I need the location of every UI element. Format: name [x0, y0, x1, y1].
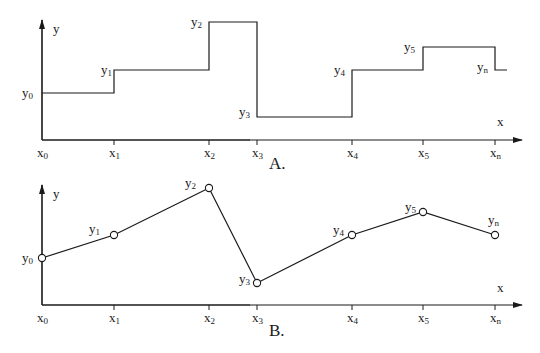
- panel-b-x3-label: x3: [252, 311, 263, 328]
- panel-a-y2-label: y2: [191, 15, 202, 32]
- panel-a-x5-label: x5: [418, 146, 429, 163]
- panel-b-x2-label: x2: [204, 311, 215, 328]
- panel-b-caption: B.: [269, 322, 285, 339]
- panel-b-x5-label: x5: [418, 311, 429, 328]
- panel-b-x0-label: x0: [37, 311, 48, 328]
- point-circle-marker: [205, 184, 212, 191]
- panel-a-x-axis-label: x: [497, 115, 504, 128]
- panel-a-y3-label: y3: [239, 105, 250, 122]
- point-circle-marker: [38, 254, 45, 261]
- panel-a-xn-label: xn: [490, 146, 501, 163]
- panel-b-markers: [38, 184, 498, 286]
- panel-a-x1-label: x1: [109, 146, 120, 163]
- panel-b-linear-chart: [38, 184, 522, 310]
- diagram-canvas: [0, 0, 540, 353]
- panel-a-y-axis-label: y: [53, 22, 60, 35]
- panel-a-x2-label: x2: [204, 146, 215, 163]
- panel-a-yn-label: yn: [477, 60, 488, 77]
- panel-a-y4-label: y4: [334, 63, 345, 80]
- point-circle-marker: [110, 231, 117, 238]
- panel-a-x4-label: x4: [347, 146, 358, 163]
- panel-a-x3-label: x3: [252, 146, 263, 163]
- panel-b-y1-label: y1: [89, 222, 100, 239]
- point-circle-marker: [491, 231, 498, 238]
- panel-a-step-chart: [42, 20, 522, 145]
- panel-b-y5-label: y5: [405, 200, 416, 217]
- panel-a-caption: A.: [269, 155, 286, 172]
- panel-b-x1-label: x1: [109, 311, 120, 328]
- panel-a-x0-label: x0: [37, 146, 48, 163]
- panel-b-y2-label: y2: [185, 176, 196, 193]
- panel-b-y3-label: y3: [239, 272, 250, 289]
- panel-b-x4-label: x4: [347, 311, 358, 328]
- point-circle-marker: [348, 231, 355, 238]
- panel-b-y-axis-label: y: [53, 187, 60, 200]
- point-circle-marker: [253, 279, 260, 286]
- panel-a-y0-label: y0: [22, 86, 33, 103]
- panel-a-y5-label: y5: [404, 40, 415, 57]
- point-circle-marker: [419, 208, 426, 215]
- panel-a-y1-label: y1: [101, 63, 112, 80]
- panel-b-x-axis-label: x: [497, 281, 504, 294]
- panel-b-xn-label: xn: [490, 311, 501, 328]
- panel-b-yn-label: yn: [488, 213, 499, 230]
- panel-b-y4-label: y4: [333, 223, 344, 240]
- panel-b-y0-label: y0: [22, 251, 33, 268]
